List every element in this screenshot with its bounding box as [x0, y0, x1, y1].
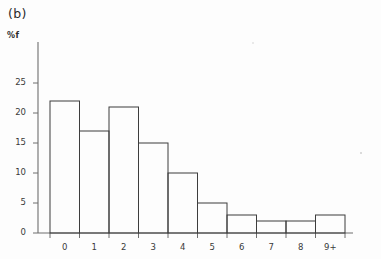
- y-axis-ticks: [33, 83, 38, 233]
- x-tick-label: 9+: [318, 242, 342, 252]
- histogram-bar: [316, 215, 346, 233]
- x-tick-label: 3: [141, 242, 165, 252]
- histogram-bars: [50, 101, 345, 233]
- y-tick-label: 15: [6, 137, 26, 147]
- histogram-bar: [257, 221, 287, 233]
- axes-lines: [38, 42, 353, 233]
- histogram-bar: [80, 131, 110, 233]
- y-tick-label: 25: [6, 77, 26, 87]
- x-tick-label: 1: [82, 242, 106, 252]
- x-tick-label: 0: [53, 242, 77, 252]
- y-tick-label: 5: [6, 197, 26, 207]
- scan-artifact-speck: [360, 152, 362, 154]
- histogram-bar: [168, 173, 198, 233]
- x-tick-label: 6: [230, 242, 254, 252]
- scan-artifact-speck: [252, 42, 254, 44]
- histogram-plot-area: [0, 0, 381, 259]
- y-tick-label: 0: [6, 227, 26, 237]
- y-tick-label: 20: [6, 107, 26, 117]
- histogram-bar: [139, 143, 169, 233]
- histogram-bar: [198, 203, 228, 233]
- x-tick-label: 4: [171, 242, 195, 252]
- x-tick-label: 8: [289, 242, 313, 252]
- histogram-bar: [109, 107, 139, 233]
- x-tick-label: 7: [259, 242, 283, 252]
- histogram-bar: [227, 215, 257, 233]
- histogram-bar: [50, 101, 80, 233]
- histogram-bar: [286, 221, 316, 233]
- x-axis-ticks: [50, 233, 345, 238]
- chart-figure: (b) %f 0510152025 0123456789+: [0, 0, 381, 259]
- x-tick-label: 2: [112, 242, 136, 252]
- y-tick-label: 10: [6, 167, 26, 177]
- x-tick-label: 5: [200, 242, 224, 252]
